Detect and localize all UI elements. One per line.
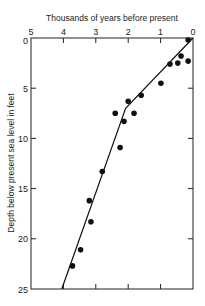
- y-tick-label: 15: [18, 184, 28, 194]
- data-point: [125, 98, 131, 104]
- data-point: [70, 263, 76, 269]
- sea-level-chart: Thousands of years before present Depth …: [0, 0, 205, 306]
- data-point: [87, 198, 93, 204]
- y-axis-title: Depth below present sea level in feet: [6, 93, 16, 233]
- y-tick-label: 25: [18, 285, 28, 295]
- data-point: [175, 60, 181, 66]
- x-tick-label: 5: [28, 27, 33, 37]
- data-point: [185, 37, 191, 43]
- y-tick-label: 20: [18, 234, 28, 244]
- data-point: [112, 111, 118, 117]
- x-axis-title: Thousands of years before present: [46, 13, 178, 23]
- x-tick-label: 2: [126, 27, 131, 37]
- data-point: [185, 58, 191, 64]
- data-points: [70, 37, 191, 269]
- y-tick-label: 5: [23, 84, 28, 94]
- x-tick-label: 3: [93, 27, 98, 37]
- y-tick-label: 0: [23, 36, 28, 46]
- x-tick-label: 0: [190, 27, 195, 37]
- data-point: [78, 247, 84, 253]
- data-point: [138, 92, 144, 98]
- x-tick-label: 4: [61, 27, 66, 37]
- data-point: [121, 119, 127, 125]
- data-point: [99, 169, 105, 175]
- data-point: [117, 145, 123, 151]
- data-point: [158, 80, 164, 86]
- data-point: [167, 61, 173, 67]
- data-point: [88, 219, 94, 225]
- plot-frame: [31, 38, 193, 289]
- y-tick-label: 10: [18, 134, 28, 144]
- x-tick-label: 1: [158, 27, 163, 37]
- data-point: [131, 111, 137, 117]
- data-point: [178, 53, 184, 59]
